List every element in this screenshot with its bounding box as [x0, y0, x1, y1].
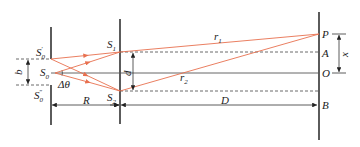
- label-b: b: [12, 69, 24, 75]
- label-s2: S2: [107, 91, 117, 106]
- label-delta-theta: Δθ: [57, 78, 70, 90]
- label-s1: S1: [107, 38, 116, 53]
- label-A: A: [321, 47, 329, 59]
- label-x: x: [338, 52, 350, 58]
- label-O: O: [322, 67, 330, 79]
- double-slit-diagram: S0′ S0 S0″ S1 S2 r1 r2 b d x Δθ R D P A …: [0, 0, 360, 147]
- label-s0-double-prime: S0″: [34, 88, 44, 104]
- label-P: P: [321, 28, 329, 40]
- label-r1: r1: [214, 30, 222, 45]
- label-B: B: [322, 99, 329, 111]
- label-D: D: [220, 94, 229, 106]
- label-s0: S0: [40, 66, 50, 81]
- label-R: R: [82, 94, 90, 106]
- label-d: d: [121, 70, 133, 76]
